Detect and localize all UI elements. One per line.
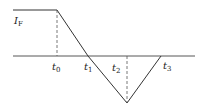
waveform-diagram: IF t0 t1 t2 t3 xyxy=(0,0,204,112)
t0-label: t0 xyxy=(52,61,61,74)
current-waveform xyxy=(13,10,161,103)
t2-label: t2 xyxy=(112,62,121,75)
waveform-svg: IF t0 t1 t2 t3 xyxy=(0,0,204,112)
t3-label: t3 xyxy=(163,60,172,73)
t1-label: t1 xyxy=(84,61,93,74)
if-label: IF xyxy=(13,15,23,28)
